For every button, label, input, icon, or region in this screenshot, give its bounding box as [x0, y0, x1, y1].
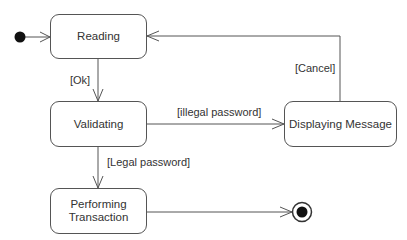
state-label-line2: Transaction — [69, 211, 129, 224]
state-reading: Reading — [50, 14, 147, 59]
state-label: Reading — [77, 30, 120, 43]
state-label: Validating — [74, 118, 124, 131]
guard-cancel: [Cancel] — [295, 62, 335, 74]
state-label: Displaying Message — [289, 118, 392, 131]
final-state-core-icon — [297, 207, 308, 218]
state-performing-transaction: Performing Transaction — [50, 188, 147, 234]
initial-state-icon — [15, 32, 26, 43]
state-validating: Validating — [50, 101, 147, 147]
state-displaying-message: Displaying Message — [284, 101, 397, 147]
state-label-line1: Performing — [70, 198, 126, 211]
guard-legal-password: [Legal password] — [107, 156, 190, 168]
guard-illegal-password: [illegal password] — [177, 106, 261, 118]
guard-ok: [Ok] — [70, 74, 90, 86]
